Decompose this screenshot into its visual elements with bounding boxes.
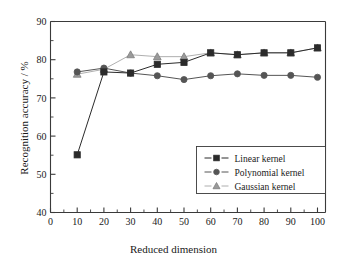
legend-marker [214,155,220,161]
data-point [261,72,267,78]
series-polynomial-kernel [74,65,320,83]
legend-label: Polynomial kernel [235,168,305,178]
data-point [181,59,187,65]
y-axis-ticks [51,22,56,213]
x-tick-label: 100 [310,216,325,227]
x-axis-tick-labels: 0102030405060708090100 [48,216,325,227]
data-point [208,73,214,79]
y-tick-label: 70 [37,93,47,104]
y-axis-label: Recognition accuracy / % [18,18,30,218]
x-tick-label: 20 [99,216,109,227]
data-point [288,50,294,56]
data-point [154,61,160,67]
x-tick-label: 80 [259,216,269,227]
x-tick-label: 10 [72,216,82,227]
chart-legend: Linear kernelPolynomial kernelGaussian k… [197,147,326,194]
series-linear-kernel [74,45,320,158]
data-point [181,76,187,82]
data-point [314,45,320,51]
legend-marker [214,169,220,175]
x-tick-label: 50 [179,216,189,227]
data-point [127,70,133,76]
data-point [234,71,240,77]
data-point [74,152,80,158]
legend-label: Linear kernel [235,154,286,164]
data-point [208,50,214,56]
data-series [73,44,321,158]
data-point [234,52,240,58]
chart-figure: 405060708090 0102030405060708090100 Line… [0,0,347,269]
data-point [127,51,135,58]
x-tick-label: 70 [232,216,242,227]
data-point [101,69,107,75]
y-tick-label: 50 [37,169,47,180]
x-tick-label: 60 [206,216,216,227]
x-tick-label: 0 [48,216,53,227]
data-point [74,69,80,75]
x-axis-ticks [51,208,318,213]
x-tick-label: 90 [286,216,296,227]
chart-canvas: 405060708090 0102030405060708090100 Line… [0,0,347,269]
y-tick-label: 80 [37,54,47,65]
series-line [77,68,317,79]
data-point [288,72,294,78]
x-tick-label: 30 [126,216,136,227]
y-tick-label: 40 [37,207,47,218]
data-point [154,73,160,79]
data-point [261,50,267,56]
y-tick-label: 90 [37,16,47,27]
y-axis-tick-labels: 405060708090 [37,16,47,218]
data-point [314,74,320,80]
legend-label: Gaussian kernel [235,182,296,192]
x-axis-label: Reduced dimension [0,243,347,255]
x-tick-label: 40 [152,216,162,227]
y-tick-label: 60 [37,131,47,142]
